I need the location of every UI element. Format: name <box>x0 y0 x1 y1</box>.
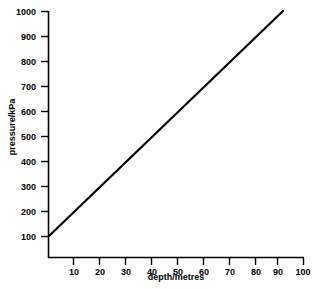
data-series-line <box>49 11 283 236</box>
plot-area <box>0 0 315 289</box>
y-axis-title: pressure/kPa <box>7 67 17 187</box>
x-axis-ticks <box>74 258 304 265</box>
y-tick-label-1000: 1000 <box>2 7 36 17</box>
y-tick-label-800: 800 <box>2 57 36 67</box>
y-tick-label-100: 100 <box>2 232 36 242</box>
chart-container: 1000 900 800 700 600 500 400 300 200 100… <box>0 0 315 289</box>
x-axis-title: depth/metres <box>48 272 304 282</box>
y-tick-label-900: 900 <box>2 32 36 42</box>
y-axis-ticks <box>41 12 48 237</box>
y-tick-label-200: 200 <box>2 207 36 217</box>
